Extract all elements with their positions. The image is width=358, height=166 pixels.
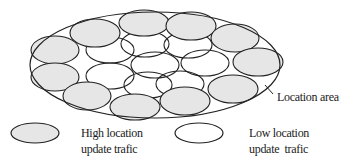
high-traffic-cell: [63, 82, 111, 110]
legend-low-label: Low location update trafic: [249, 125, 309, 157]
legend-high-label: High location update trafic: [81, 125, 143, 157]
high-traffic-cell: [211, 24, 259, 52]
legend-high-line2: update trafic: [81, 141, 143, 157]
legend-high-swatch: [11, 123, 59, 143]
high-traffic-cell: [31, 36, 79, 64]
high-traffic-cell: [233, 48, 283, 76]
legend-low-line1: Low location: [249, 125, 309, 141]
legend-high-line1: High location: [81, 125, 143, 141]
legend-low-line2: update trafic: [249, 141, 309, 157]
high-traffic-cell: [160, 87, 210, 115]
location-area-label: Location area: [277, 89, 339, 105]
high-traffic-cell: [166, 12, 216, 40]
legend-low-swatch: [175, 123, 223, 143]
high-traffic-cell: [119, 10, 169, 36]
